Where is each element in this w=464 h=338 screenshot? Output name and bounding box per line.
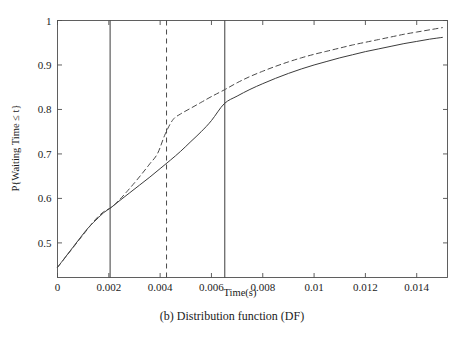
x-axis-label: Time(s) [224, 287, 257, 299]
figure-panel: 00.0020.0040.0060.0080.010.0120.014 0.50… [0, 0, 464, 338]
y-tick-label-2: 0.7 [38, 148, 52, 160]
y-tick-label-3: 0.8 [38, 103, 52, 115]
y-tick-label-5: 1 [46, 15, 52, 27]
y-tick-label-1: 0.6 [38, 192, 52, 204]
distribution-function-chart: 00.0020.0040.0060.0080.010.0120.014 0.50… [0, 0, 464, 338]
figure-caption: (b) Distribution function (DF) [160, 309, 304, 323]
x-tick-label-6: 0.012 [353, 281, 378, 293]
y-axis-label: P{Waiting Time ≤ t} [10, 104, 21, 191]
x-tick-label-7: 0.014 [404, 281, 429, 293]
x-tick-label-0: 0 [55, 281, 61, 293]
y-tick-label-0: 0.5 [38, 237, 52, 249]
x-tick-label-3: 0.006 [199, 281, 224, 293]
x-tick-label-2: 0.004 [148, 281, 173, 293]
x-tick-label-1: 0.002 [96, 281, 121, 293]
y-tick-label-4: 0.9 [38, 59, 52, 71]
x-tick-label-5: 0.01 [304, 281, 323, 293]
